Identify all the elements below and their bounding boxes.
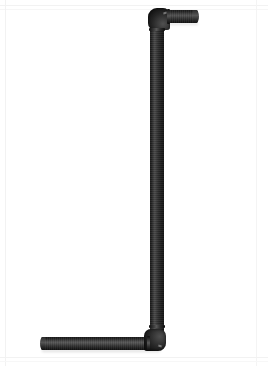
product-image-canvas (0, 0, 268, 366)
photo-frame-edge-bottom (0, 357, 268, 358)
bottom-arm-end-cap (40, 337, 45, 350)
photo-frame-edge-bottom-inner (0, 361, 268, 362)
top-elbow-horizontal-collar (167, 9, 170, 24)
vertical-riser-pipe (150, 14, 164, 346)
bottom-arm-contact-shadow (42, 350, 160, 353)
top-elbow-vertical-collar (149, 28, 165, 31)
bottom-horizontal-arm-pipe (41, 337, 154, 350)
top-arm-end-cap (193, 10, 199, 23)
bottom-elbow-vertical-collar (149, 325, 165, 328)
photo-frame-edge-left (5, 0, 6, 366)
photo-frame-edge-top-inner (0, 9, 268, 10)
photo-frame-edge-top (0, 5, 268, 6)
photo-frame-edge-right (256, 0, 257, 366)
bottom-elbow-horizontal-collar (147, 336, 150, 351)
